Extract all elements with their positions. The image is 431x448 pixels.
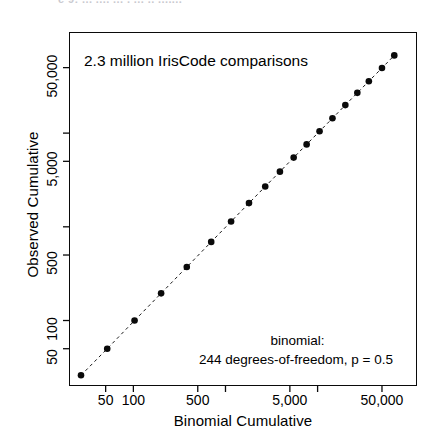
data-point xyxy=(246,200,253,207)
y-tick-label: 100 xyxy=(44,329,60,352)
x-tick-label: 50,000 xyxy=(361,392,404,408)
data-point xyxy=(208,239,215,246)
data-point xyxy=(277,168,284,175)
x-tick-label: 100 xyxy=(122,392,145,408)
annotation-model-label: binomial: xyxy=(190,333,405,348)
y-axis-title: Observed Cumulative xyxy=(24,90,41,320)
data-point xyxy=(158,290,165,297)
x-tick-label: 50 xyxy=(98,392,114,408)
data-point xyxy=(290,154,297,161)
data-point xyxy=(391,52,398,59)
annotation-model-params: 244 degrees-of-freedom, p = 0.5 xyxy=(180,352,412,367)
annotation-headline: 2.3 million IrisCode comparisons xyxy=(84,52,308,70)
y-tick-label: 50 xyxy=(44,357,60,373)
x-tick-label: 5,000 xyxy=(272,392,307,408)
data-point xyxy=(228,218,235,225)
data-point xyxy=(78,372,85,379)
data-point xyxy=(366,78,373,85)
y-tick-label: 5,000 xyxy=(44,169,60,204)
x-axis-ticks xyxy=(106,386,382,392)
y-tick-label: 50,000 xyxy=(44,76,60,119)
data-point xyxy=(342,102,349,109)
data-point xyxy=(303,141,310,148)
data-point xyxy=(183,264,190,271)
data-point xyxy=(104,345,111,352)
data-points xyxy=(78,52,398,379)
x-axis-title: Binomial Cumulative xyxy=(69,412,417,429)
data-point xyxy=(329,115,336,122)
y-axis-ticks xyxy=(63,68,69,349)
data-point xyxy=(316,128,323,135)
data-point xyxy=(262,183,269,190)
data-point xyxy=(379,65,386,72)
y-tick-label: 500 xyxy=(44,263,60,286)
x-tick-label: 500 xyxy=(186,392,209,408)
data-point xyxy=(131,317,138,324)
qq-plot-figure: 2.3 million IrisCode comparisons binomia… xyxy=(0,0,431,448)
data-point xyxy=(354,90,361,97)
